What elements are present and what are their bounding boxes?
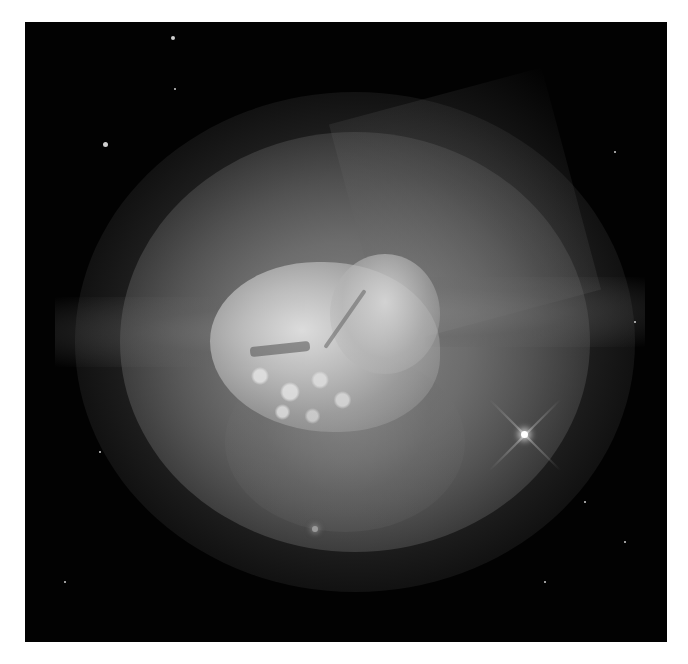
nebula-shell: [120, 132, 590, 552]
page: [0, 0, 688, 664]
core-right-lobe: [330, 254, 440, 374]
nebula-photograph: [25, 22, 667, 642]
star-icon: [624, 541, 626, 543]
star-icon: [103, 142, 108, 147]
right-wing: [425, 277, 645, 347]
star-icon: [614, 151, 616, 153]
faint-star: [312, 526, 318, 532]
core-dark-band: [250, 341, 311, 357]
diffraction-spike: [489, 399, 561, 471]
left-wing: [55, 297, 305, 367]
diffraction-spike: [489, 399, 561, 471]
core-seam: [323, 289, 366, 349]
star-icon: [634, 321, 636, 323]
star-icon: [174, 88, 176, 90]
bright-star-group: [495, 405, 555, 465]
star-icon: [584, 501, 586, 503]
upper-right-streaks: [329, 67, 601, 346]
star-icon: [171, 36, 175, 40]
core-knots: [230, 352, 380, 432]
bright-core: [210, 262, 440, 432]
bright-star-icon: [521, 431, 528, 438]
lower-lobe: [225, 352, 465, 532]
outer-halo: [75, 92, 635, 592]
star-icon: [544, 581, 546, 583]
star-icon: [99, 451, 101, 453]
star-icon: [64, 581, 66, 583]
